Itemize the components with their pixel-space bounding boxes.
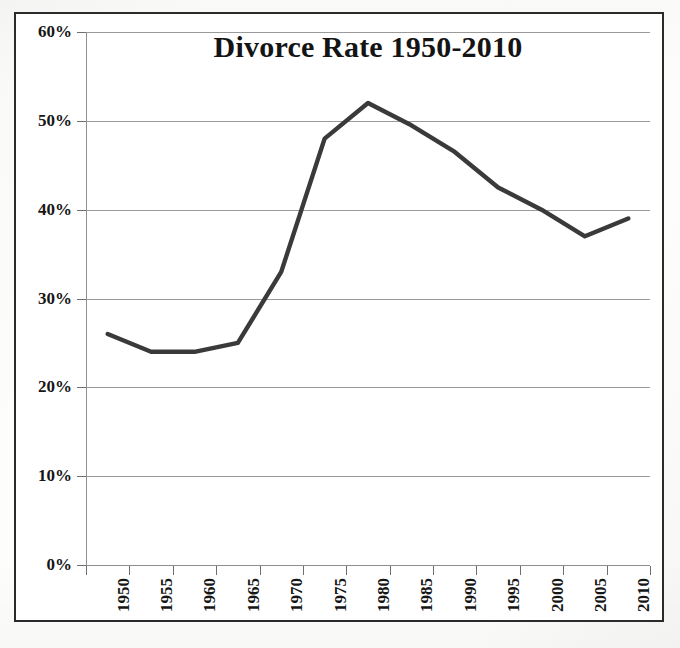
x-axis-label-1990: 1990 xyxy=(462,578,479,612)
y-tick-40 xyxy=(77,210,86,211)
chart-screenshot: Divorce Rate 1950-2010 0%10%20%30%40%50%… xyxy=(0,0,680,648)
y-axis-label-20: 20% xyxy=(0,378,72,395)
x-tick-6 xyxy=(346,566,347,575)
y-axis-label-30: 30% xyxy=(0,290,72,307)
x-axis-label-1965: 1965 xyxy=(245,578,262,612)
x-tick-0 xyxy=(86,566,87,575)
x-tick-2 xyxy=(173,566,174,575)
x-axis-label-1995: 1995 xyxy=(505,578,522,612)
plot-area xyxy=(86,32,650,565)
x-axis-label-1950: 1950 xyxy=(115,578,132,612)
x-tick-3 xyxy=(216,566,217,575)
x-axis-label-1980: 1980 xyxy=(375,578,392,612)
x-tick-12 xyxy=(607,566,608,575)
y-tick-50 xyxy=(77,121,86,122)
x-tick-4 xyxy=(260,566,261,575)
x-tick-5 xyxy=(303,566,304,575)
gridline-20 xyxy=(86,387,650,388)
x-axis-label-2000: 2000 xyxy=(549,578,566,612)
gridline-30 xyxy=(86,299,650,300)
y-axis-label-50: 50% xyxy=(0,112,72,129)
x-axis-label-1985: 1985 xyxy=(418,578,435,612)
y-tick-0 xyxy=(77,565,86,566)
y-tick-60 xyxy=(77,32,86,33)
x-tick-1 xyxy=(129,566,130,575)
x-tick-7 xyxy=(390,566,391,575)
x-tick-13 xyxy=(650,566,651,575)
x-tick-10 xyxy=(520,566,521,575)
gridline-10 xyxy=(86,476,650,477)
y-tick-10 xyxy=(77,476,86,477)
y-axis-label-0: 0% xyxy=(0,556,72,573)
x-axis-label-1970: 1970 xyxy=(288,578,305,612)
x-axis-label-1955: 1955 xyxy=(158,578,175,612)
y-axis-label-40: 40% xyxy=(0,201,72,218)
x-tick-9 xyxy=(476,566,477,575)
x-axis-label-1975: 1975 xyxy=(332,578,349,612)
x-axis-label-1960: 1960 xyxy=(201,578,218,612)
y-axis-label-10: 10% xyxy=(0,467,72,484)
gridline-0 xyxy=(86,565,650,566)
x-axis-label-2005: 2005 xyxy=(592,578,609,612)
gridline-40 xyxy=(86,210,650,211)
x-tick-8 xyxy=(433,566,434,575)
y-tick-20 xyxy=(77,387,86,388)
x-tick-11 xyxy=(563,566,564,575)
gridline-60 xyxy=(86,32,650,33)
gridline-50 xyxy=(86,121,650,122)
x-axis-label-2010: 2010 xyxy=(635,578,652,612)
y-axis-label-60: 60% xyxy=(0,23,72,40)
y-tick-30 xyxy=(77,299,86,300)
